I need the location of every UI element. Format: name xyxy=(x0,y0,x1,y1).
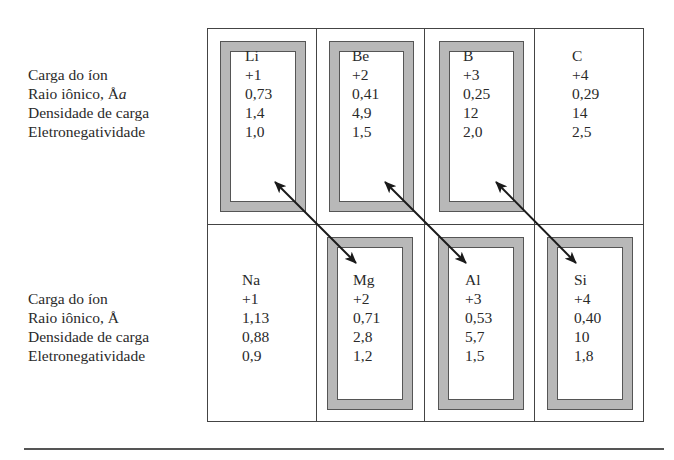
bottom-rule xyxy=(24,448,664,450)
arrow-be-al xyxy=(385,182,466,263)
diagonal-arrows xyxy=(0,0,674,460)
arrow-b-si xyxy=(496,182,576,263)
arrow-li-mg xyxy=(275,182,356,263)
